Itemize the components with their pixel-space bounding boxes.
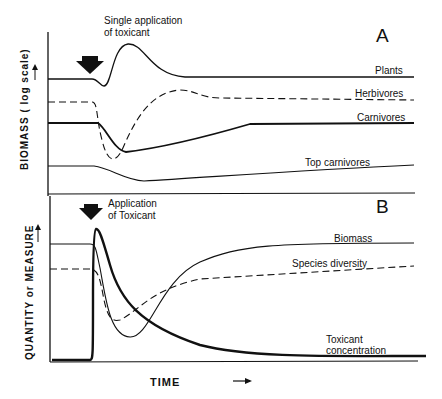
label-herbivores: Herbivores (355, 88, 403, 99)
plants-curve (48, 44, 414, 86)
carnivores-curve (48, 123, 414, 152)
up-arrow-head (35, 224, 41, 230)
label-concentration: concentration (326, 345, 386, 356)
up-arrow-head (32, 64, 38, 70)
annotation-b-line1: Application (108, 198, 157, 209)
annotation-a-line1: Single application (104, 15, 182, 26)
label-biomass: Biomass (334, 233, 372, 244)
panel-b-x-axis (50, 361, 418, 362)
x-axis-label: TIME (150, 376, 180, 388)
arrow-down-icon (76, 61, 104, 74)
toxicant-curve (52, 229, 426, 360)
annotation-b-line2: of Toxicant (108, 210, 156, 221)
herbivores-curve (48, 90, 414, 159)
arrow-down-icon (79, 208, 103, 220)
panel-a-letter: A (376, 25, 389, 46)
panel-b-y-label: QUANTITY or MEASURE (24, 225, 35, 361)
arrow-stem (82, 56, 98, 62)
label-top-carnivores: Top carnivores (305, 157, 370, 168)
label-toxicant: Toxicant (326, 334, 363, 345)
label-species-diversity: Species diversity (292, 258, 367, 269)
figure: Single application of toxicant A Plants … (0, 0, 442, 399)
label-carnivores: Carnivores (357, 112, 405, 123)
panel-b-letter: B (376, 196, 389, 217)
label-plants: Plants (375, 65, 403, 76)
arrow-stem (84, 204, 98, 209)
panel-a-x-axis (48, 193, 415, 194)
right-arrow-head (245, 378, 252, 384)
annotation-a-line2: of toxicant (104, 27, 150, 38)
panel-a-y-label: BIOMASS ( log scale) (19, 48, 30, 170)
